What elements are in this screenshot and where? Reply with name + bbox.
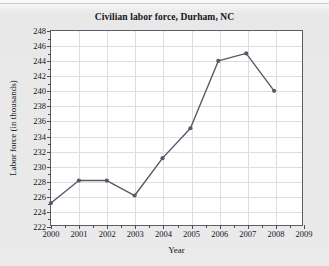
x-axis-minor-tick (206, 225, 207, 228)
y-axis-title: Labor force (in thousands) (6, 30, 20, 226)
x-axis-minor-tick (65, 225, 66, 228)
x-axis-minor-tick (290, 225, 291, 228)
x-axis-tick-label: 2006 (211, 230, 228, 239)
y-axis-tick (47, 167, 51, 168)
x-axis-tick-label: 2004 (155, 230, 172, 239)
x-axis-minor-tick (178, 225, 179, 228)
line-series (51, 31, 302, 225)
y-axis-tick-label: 224 (33, 208, 46, 217)
y-axis-tick (47, 197, 51, 198)
x-axis-minor-tick (234, 225, 235, 228)
y-axis-tick-label: 228 (33, 178, 46, 187)
x-axis-minor-tick (149, 225, 150, 228)
y-axis-minor-tick (48, 189, 51, 190)
data-point-marker (216, 59, 220, 63)
x-axis-title: Year (50, 245, 303, 255)
x-axis-tick-label: 2000 (43, 230, 60, 239)
y-axis-tick-label: 234 (33, 132, 46, 141)
y-axis-tick (47, 76, 51, 77)
y-axis-tick (47, 212, 51, 213)
y-axis-tick-label: 246 (33, 42, 46, 51)
y-axis-tick-label: 242 (33, 72, 46, 81)
y-axis-tick (47, 152, 51, 153)
data-point-marker (160, 156, 164, 160)
y-axis-tick-label: 240 (33, 87, 46, 96)
x-axis-minor-tick (93, 225, 94, 228)
x-axis-tick-label: 2008 (267, 230, 284, 239)
y-axis-minor-tick (48, 114, 51, 115)
y-axis-tick-label: 238 (33, 102, 46, 111)
y-axis-minor-tick (48, 219, 51, 220)
data-point-marker (272, 89, 276, 93)
data-point-marker (188, 126, 192, 130)
y-axis-tick (47, 121, 51, 122)
data-point-marker (133, 193, 137, 197)
y-axis-minor-tick (48, 159, 51, 160)
x-axis-minor-tick (262, 225, 263, 228)
y-axis-tick-label: 230 (33, 162, 46, 171)
y-axis-minor-tick (48, 84, 51, 85)
y-axis-minor-tick (48, 129, 51, 130)
y-axis-minor-tick (48, 69, 51, 70)
x-axis-tick-label: 2007 (239, 230, 256, 239)
x-axis-tick-label: 2003 (127, 230, 144, 239)
y-axis-tick-label: 226 (33, 193, 46, 202)
y-axis-tick (47, 182, 51, 183)
y-axis-minor-tick (48, 174, 51, 175)
x-axis-tick-label: 2005 (183, 230, 200, 239)
x-axis-minor-tick (121, 225, 122, 228)
figure-top-divider (0, 3, 329, 4)
y-axis-tick (47, 137, 51, 138)
y-axis-tick (47, 46, 51, 47)
x-axis-tick-label: 2009 (296, 230, 313, 239)
y-axis-tick (47, 31, 51, 32)
x-axis-tick-label: 2001 (71, 230, 88, 239)
y-axis-tick (47, 106, 51, 107)
y-axis-tick-label: 244 (33, 57, 46, 66)
data-point-marker (77, 178, 81, 182)
x-axis-tick-label: 2002 (99, 230, 116, 239)
y-axis-minor-tick (48, 144, 51, 145)
y-axis-tick-label: 236 (33, 117, 46, 126)
y-axis-minor-tick (48, 99, 51, 100)
chart-figure: Civilian labor force, Durham, NC 2222242… (0, 0, 329, 266)
y-axis-tick-label: 232 (33, 147, 46, 156)
y-axis-minor-tick (48, 54, 51, 55)
y-axis-minor-tick (48, 204, 51, 205)
chart-title: Civilian labor force, Durham, NC (0, 12, 329, 22)
y-axis-tick-label: 248 (33, 27, 46, 36)
y-axis-tick (47, 61, 51, 62)
data-point-marker (244, 51, 248, 55)
data-point-marker (105, 178, 109, 182)
series-line (51, 53, 274, 203)
plot-area: 2222242262282302322342362382402422442462… (50, 30, 303, 226)
y-axis-tick (47, 91, 51, 92)
y-axis-minor-tick (48, 39, 51, 40)
